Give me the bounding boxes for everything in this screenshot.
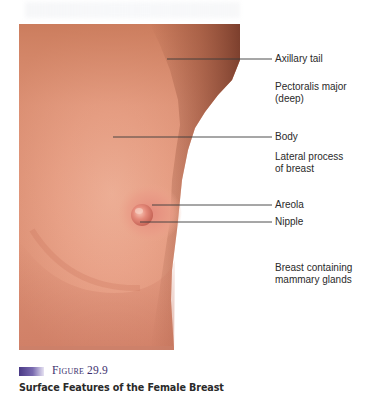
label-breast-mammary: Breast containing mammary glands <box>275 262 352 285</box>
anatomy-figure: Axillary tail Pectoralis major (deep) Bo… <box>0 0 377 400</box>
caption-color-bar <box>19 367 44 376</box>
label-body: Body <box>275 131 298 143</box>
label-nipple: Nipple <box>275 216 303 228</box>
label-lateral-process: Lateral process of breast <box>275 151 343 174</box>
label-areola: Areola <box>275 199 304 211</box>
figure-title: Surface Features of the Female Breast <box>19 382 224 393</box>
figure-number: Figure 29.9 <box>52 364 108 376</box>
label-axillary-tail: Axillary tail <box>275 53 323 65</box>
label-pectoralis-major: Pectoralis major (deep) <box>275 81 347 104</box>
